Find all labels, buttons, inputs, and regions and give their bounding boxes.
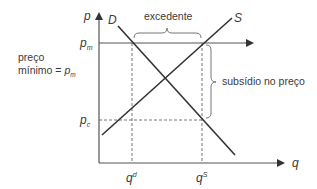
- min-price-annotation-line1: preço: [18, 51, 44, 63]
- subsidy-label: subsídio no preço: [222, 75, 305, 87]
- surplus-brace: [134, 28, 201, 38]
- demand-label: D: [108, 13, 117, 27]
- min-price-annotation-line2: mínimo = pm: [18, 64, 76, 78]
- pm-label: pm: [79, 36, 93, 51]
- subsidy-brace: [206, 45, 216, 118]
- y-axis-label: p: [83, 9, 91, 23]
- surplus-label: excedente: [144, 10, 193, 22]
- demand-curve: [118, 26, 235, 155]
- supply-label: S: [234, 11, 242, 25]
- price-floor-diagram: p q D S pm pc qd qS preço mínimo = pm ex…: [0, 0, 317, 189]
- pc-label: pc: [79, 113, 91, 128]
- qd-label: qd: [126, 171, 138, 185]
- supply-curve: [102, 18, 232, 135]
- qs-label: qS: [196, 171, 208, 185]
- x-axis-label: q: [292, 156, 299, 170]
